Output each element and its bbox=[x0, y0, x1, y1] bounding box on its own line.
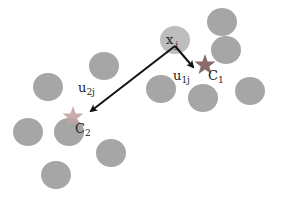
data-point bbox=[96, 139, 126, 167]
data-point bbox=[89, 52, 119, 80]
label-c2: C2 bbox=[75, 121, 91, 138]
data-point bbox=[235, 77, 265, 105]
data-point bbox=[211, 36, 241, 64]
data-point bbox=[33, 73, 63, 101]
clustering-diagram: xj u1j u2j C1 C2 bbox=[0, 0, 287, 199]
data-point bbox=[13, 118, 43, 146]
data-point bbox=[41, 161, 71, 189]
data-point bbox=[146, 75, 176, 103]
label-u1j: u1j bbox=[173, 68, 190, 85]
label-c1: C1 bbox=[208, 68, 224, 85]
label-u2j: u2j bbox=[78, 80, 95, 97]
data-point bbox=[188, 84, 218, 112]
data-point bbox=[207, 8, 237, 36]
data-points bbox=[13, 8, 265, 189]
